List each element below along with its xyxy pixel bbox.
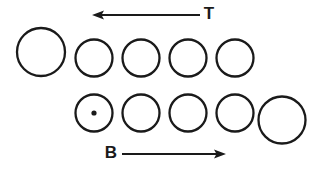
- bottom-circle-5: [259, 97, 306, 144]
- top-circle-5-outline: [217, 40, 254, 77]
- bottom-circle-4-outline: [217, 95, 254, 132]
- top-circle-1-outline: [17, 28, 65, 76]
- bottom-circle-3-outline: [170, 95, 207, 132]
- circles-and-arrows-diagram: T B: [0, 0, 325, 172]
- bottom-circle-1-center-dot: [91, 110, 96, 115]
- top-circle-2-outline: [76, 40, 113, 77]
- bottom-circle-2-outline: [123, 95, 160, 132]
- bottom-direction-arrow: B: [105, 143, 226, 162]
- top-direction-arrow: T: [92, 4, 215, 23]
- top-circle-3-outline: [123, 40, 160, 77]
- top-circle-3: [123, 40, 160, 77]
- bottom-row-circles: [76, 95, 306, 144]
- bottom-circle-4: [217, 95, 254, 132]
- top-circle-5: [217, 40, 254, 77]
- top-circle-4-outline: [170, 40, 207, 77]
- diagram-canvas: T B: [0, 0, 325, 172]
- top-circle-1: [17, 28, 65, 76]
- bottom-circle-2: [123, 95, 160, 132]
- bottom-circle-3: [170, 95, 207, 132]
- top-circle-2: [76, 40, 113, 77]
- bottom-circle-1: [76, 95, 113, 132]
- bottom-arrow-label: B: [105, 143, 117, 162]
- top-row-circles: [17, 28, 254, 77]
- top-circle-4: [170, 40, 207, 77]
- bottom-circle-5-outline: [259, 97, 306, 144]
- top-arrow-label: T: [204, 4, 215, 23]
